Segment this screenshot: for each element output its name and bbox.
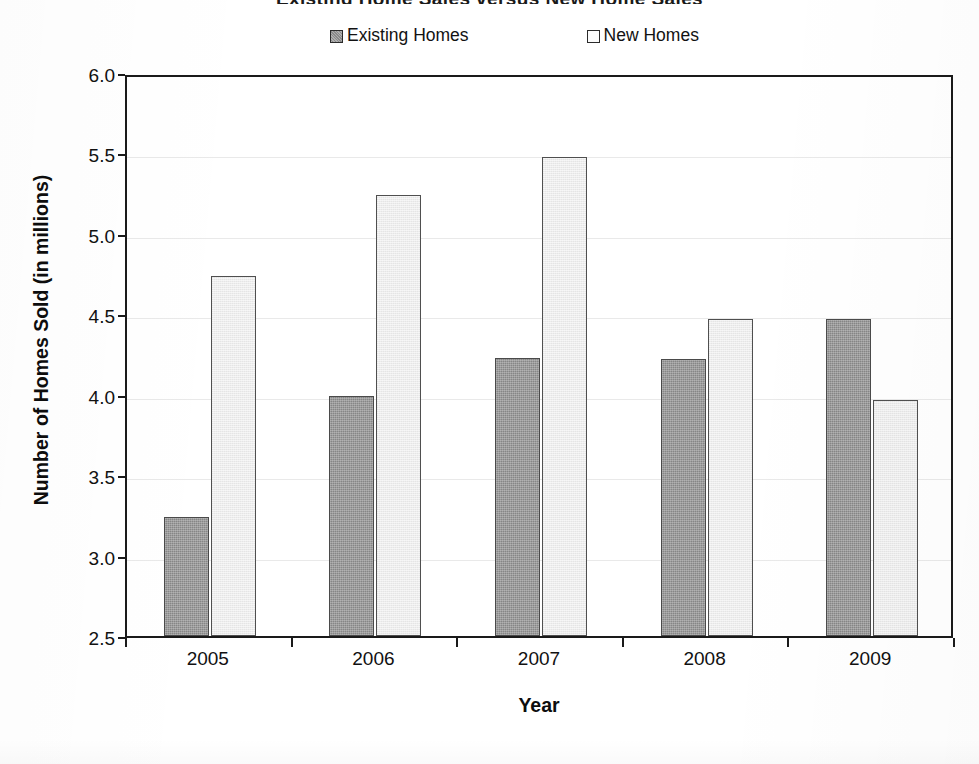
- chart-title: Existing Home Sales versus New Home Sale…: [0, 0, 979, 4]
- y-axis-tick-label: 5.0: [53, 227, 115, 246]
- y-axis-tick-mark: [118, 315, 125, 317]
- bars-layer: [127, 77, 951, 636]
- y-axis-tick-label: 4.5: [53, 307, 115, 326]
- legend-label-existing-homes: Existing Homes: [347, 27, 469, 45]
- legend-entry-existing-homes: Existing Homes: [330, 27, 469, 45]
- x-axis-tick-mark: [456, 638, 458, 647]
- y-axis-tick-mark: [118, 154, 125, 156]
- x-axis-title: Year: [125, 694, 953, 717]
- x-axis-tick-label-2006: 2006: [313, 648, 433, 670]
- bar-new-homes-2008: [708, 319, 753, 636]
- page-edge-shadow: [0, 738, 979, 764]
- x-axis-tick-label-2005: 2005: [148, 648, 268, 670]
- x-axis-tick-mark: [787, 638, 789, 647]
- bar-existing-homes-2006: [329, 396, 374, 636]
- chart-legend: Existing Homes New Homes: [330, 24, 750, 48]
- legend-label-new-homes: New Homes: [604, 27, 699, 45]
- x-axis-tick-mark: [291, 638, 293, 647]
- bar-existing-homes-2005: [164, 517, 209, 636]
- bar-new-homes-2006: [376, 195, 421, 636]
- y-axis-tick-mark: [118, 476, 125, 478]
- bar-new-homes-2009: [873, 400, 918, 636]
- y-axis-tick-mark: [118, 235, 125, 237]
- legend-swatch-icon-new-homes: [587, 30, 600, 43]
- legend-swatch-icon-existing-homes: [330, 30, 343, 43]
- x-axis-tick-label-2009: 2009: [810, 648, 930, 670]
- y-axis-tick-label: 5.5: [53, 146, 115, 165]
- x-axis-tick-mark: [125, 638, 127, 647]
- x-axis-tick-mark: [953, 638, 955, 647]
- bar-existing-homes-2007: [495, 358, 540, 636]
- y-axis-tick-mark: [118, 74, 125, 76]
- bar-new-homes-2007: [542, 157, 587, 636]
- bar-new-homes-2005: [211, 276, 256, 636]
- y-axis-tick-mark: [118, 637, 125, 639]
- x-axis-tick-label-2008: 2008: [645, 648, 765, 670]
- bar-existing-homes-2009: [826, 319, 871, 636]
- y-axis-tick-label: 4.0: [53, 388, 115, 407]
- x-axis-tick-mark: [622, 638, 624, 647]
- y-axis-tick-mark: [118, 557, 125, 559]
- bar-existing-homes-2008: [661, 359, 706, 636]
- bar-chart-figure: Existing Home Sales versus New Home Sale…: [0, 0, 979, 764]
- y-axis-tick-label: 3.0: [53, 549, 115, 568]
- plot-area: [125, 75, 953, 638]
- y-axis-tick-mark: [118, 396, 125, 398]
- legend-entry-new-homes: New Homes: [587, 27, 699, 45]
- y-axis-tick-label: 6.0: [53, 66, 115, 85]
- y-axis-tick-label: 2.5: [53, 629, 115, 648]
- x-axis-tick-label-2007: 2007: [479, 648, 599, 670]
- y-axis-tick-label: 3.5: [53, 468, 115, 487]
